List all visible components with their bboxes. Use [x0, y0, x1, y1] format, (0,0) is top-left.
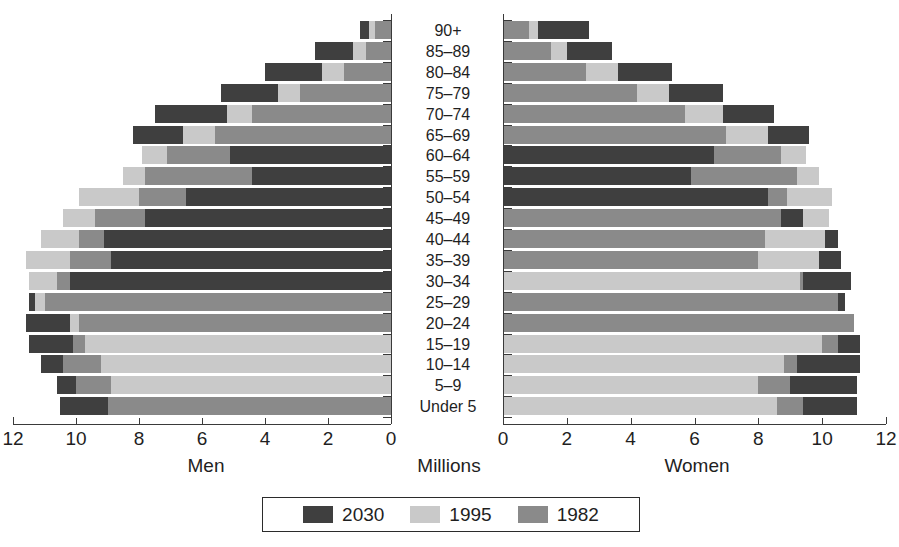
legend-item-1995[interactable]: 1995: [410, 504, 491, 525]
bar-segment-1982: [45, 293, 392, 311]
legend-label: 2030: [342, 504, 384, 525]
bar-row: [0, 272, 392, 290]
bar-row: [0, 63, 392, 81]
category-tick: [504, 334, 512, 335]
bar-segment-1982: [252, 105, 391, 123]
category-tick: [383, 166, 391, 167]
bar-segment-1995: [503, 355, 784, 373]
category-tick: [383, 145, 391, 146]
bar-row: [0, 105, 392, 123]
age-group-label: 10–14: [398, 356, 498, 374]
value-tick: [265, 418, 266, 424]
bar-row: [0, 209, 392, 227]
bar-row: [502, 230, 899, 248]
bar-row: [0, 21, 392, 39]
category-tick: [383, 375, 391, 376]
bar-row: [502, 251, 899, 269]
value-tick: [567, 418, 568, 424]
category-tick: [504, 208, 512, 209]
bar-segment-1982: [503, 251, 758, 269]
bar-row: [0, 84, 392, 102]
value-tick: [886, 417, 887, 424]
bar-segment-1982: [503, 126, 726, 144]
category-tick: [383, 271, 391, 272]
category-tick: [383, 20, 391, 21]
bar-row: [502, 126, 899, 144]
women-value-axis: [503, 424, 886, 425]
bar-segment-1982: [503, 84, 637, 102]
value-tick: [695, 418, 696, 424]
category-tick: [383, 417, 391, 418]
bar-segment-2030: [111, 251, 391, 269]
bar-row: [502, 21, 899, 39]
age-group-label: 5–9: [398, 377, 498, 395]
bar-segment-2030: [230, 146, 391, 164]
bar-segment-2030: [70, 272, 391, 290]
age-group-label: 80–84: [398, 64, 498, 82]
bar-segment-1995: [503, 335, 822, 353]
legend-swatch-icon: [303, 506, 333, 523]
bar-row: [0, 42, 392, 60]
value-tick-label: 0: [483, 428, 523, 450]
bar-row: [502, 105, 899, 123]
value-tick-label: 12: [866, 428, 899, 450]
category-tick: [504, 104, 512, 105]
age-group-label: 20–24: [398, 315, 498, 333]
bar-segment-2030: [252, 167, 391, 185]
bar-row: [0, 355, 392, 373]
bar-segment-1982: [344, 63, 391, 81]
bar-segment-1995: [111, 376, 391, 394]
category-tick: [504, 187, 512, 188]
bar-row: [502, 188, 899, 206]
bar-segment-2030: [186, 188, 391, 206]
bar-segment-1982: [375, 21, 391, 39]
legend-item-2030[interactable]: 2030: [303, 504, 384, 525]
category-tick: [504, 375, 512, 376]
value-tick: [391, 417, 392, 424]
bar-row: [0, 293, 392, 311]
value-tick: [13, 417, 14, 424]
bar-row: [502, 63, 899, 81]
bar-segment-1995: [101, 355, 391, 373]
bar-row: [502, 272, 899, 290]
age-group-label: 30–34: [398, 273, 498, 291]
bar-segment-1982: [503, 230, 765, 248]
legend-item-1982[interactable]: 1982: [518, 504, 599, 525]
category-tick: [383, 250, 391, 251]
value-tick-label: 2: [547, 428, 587, 450]
category-tick: [504, 271, 512, 272]
bar-row: [502, 376, 899, 394]
category-tick: [504, 62, 512, 63]
women-axis-title: Women: [597, 455, 797, 477]
bar-row: [0, 251, 392, 269]
bar-segment-2030: [503, 188, 768, 206]
bar-segment-1982: [503, 209, 781, 227]
category-tick: [383, 62, 391, 63]
bar-row: [0, 146, 392, 164]
bar-segment-1995: [503, 376, 758, 394]
value-tick: [758, 418, 759, 424]
value-tick-label: 8: [738, 428, 778, 450]
category-tick: [504, 417, 512, 418]
category-tick: [504, 20, 512, 21]
value-tick: [503, 417, 504, 424]
bar-segment-1982: [79, 314, 391, 332]
age-group-label: 50–54: [398, 189, 498, 207]
category-tick: [504, 166, 512, 167]
category-tick: [504, 292, 512, 293]
bar-segment-1982: [503, 42, 551, 60]
value-tick-label: 6: [675, 428, 715, 450]
bar-segment-1982: [503, 63, 586, 81]
category-tick: [383, 354, 391, 355]
category-tick: [383, 104, 391, 105]
bar-segment-2030: [503, 167, 691, 185]
category-tick: [504, 354, 512, 355]
category-tick: [504, 250, 512, 251]
bar-row: [0, 376, 392, 394]
category-tick: [383, 208, 391, 209]
bar-row: [502, 209, 899, 227]
age-group-label: 90+: [398, 22, 498, 40]
category-tick: [383, 334, 391, 335]
value-tick-label: 0: [371, 428, 411, 450]
category-tick: [504, 83, 512, 84]
